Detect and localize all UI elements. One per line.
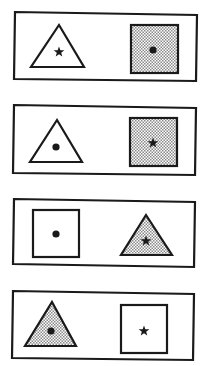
panels-layer xyxy=(12,12,197,360)
panel-1 xyxy=(14,12,197,81)
panel-3 xyxy=(13,199,195,267)
left-white-square xyxy=(33,210,79,257)
dot-marker-icon xyxy=(47,327,54,334)
dot-marker-icon xyxy=(52,230,59,237)
right-white-square xyxy=(121,305,167,353)
right-shaded-triangle xyxy=(121,215,172,255)
figure-canvas xyxy=(0,0,218,366)
left-white-triangle xyxy=(30,120,82,162)
panel-4 xyxy=(12,291,194,360)
right-shaded-square xyxy=(131,25,178,73)
dot-marker-icon xyxy=(52,143,59,150)
triangle-shape xyxy=(121,215,172,255)
triangle-shape xyxy=(30,120,82,162)
panel-2 xyxy=(13,105,196,175)
right-shaded-square xyxy=(130,118,177,166)
triangle-shape xyxy=(31,25,84,67)
left-shaded-triangle xyxy=(25,302,76,346)
left-white-triangle xyxy=(31,25,84,67)
dot-marker-icon xyxy=(149,46,156,53)
triangle-shape xyxy=(25,302,76,346)
